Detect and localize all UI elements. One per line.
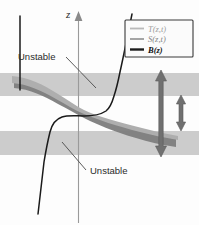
short-range-arrow bbox=[176, 95, 185, 131]
figure-container: Unstable Unstable z T(z,t) S(z,t) B(z) bbox=[0, 0, 199, 225]
legend-label-s-curve: S(z,t) bbox=[148, 34, 166, 44]
legend-label-t-curve: T(z,t) bbox=[148, 24, 166, 34]
annotation-unstable-lower: Unstable bbox=[90, 165, 128, 176]
annotation-unstable-upper: Unstable bbox=[18, 51, 56, 62]
z-axis bbox=[75, 11, 83, 223]
z-axis-label: z bbox=[65, 8, 71, 20]
z-axis-arrowhead bbox=[75, 11, 83, 21]
legend-label-b-curve: B(z) bbox=[147, 45, 163, 55]
legend: T(z,t) S(z,t) B(z) bbox=[125, 20, 193, 57]
